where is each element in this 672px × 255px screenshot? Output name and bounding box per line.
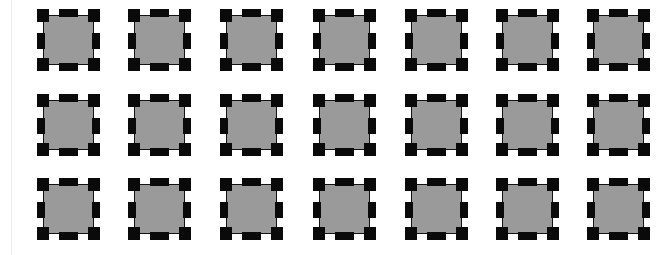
tile-block-m-t xyxy=(518,178,537,186)
tile-fill xyxy=(43,15,94,65)
tile-fill xyxy=(593,184,644,234)
tile-block-c-tr xyxy=(456,178,468,191)
tile-fill xyxy=(319,100,370,150)
tile-block-c-tr xyxy=(456,9,468,22)
tile-block-c-bl xyxy=(587,143,599,156)
tile-block-c-bl xyxy=(496,143,508,156)
tile-block-m-t xyxy=(335,9,354,17)
tile-block-c-bl xyxy=(220,143,232,156)
tile-block-c-br xyxy=(364,143,376,156)
tile-block-c-br xyxy=(456,143,468,156)
tile-block-m-l xyxy=(587,33,595,49)
tile-block-c-br xyxy=(88,58,100,71)
tile-block-m-b xyxy=(609,63,628,71)
tile-block-m-r xyxy=(551,33,559,49)
tile-block-m-l xyxy=(220,33,228,49)
tile-fill xyxy=(411,15,462,65)
tile-block-m-t xyxy=(150,178,169,186)
tile-block-m-b xyxy=(427,63,446,71)
tile-block-m-t xyxy=(427,9,446,17)
tile-block-m-l xyxy=(405,202,413,218)
tile-block-m-b xyxy=(59,232,78,240)
tile-block-c-tl xyxy=(313,9,325,22)
tile-r3-c7 xyxy=(587,178,650,240)
tile-block-c-tl xyxy=(405,178,417,191)
tile-block-c-bl xyxy=(405,227,417,240)
tile-block-m-l xyxy=(37,33,45,49)
tile-block-m-t xyxy=(59,9,78,17)
tile-block-m-r xyxy=(551,202,559,218)
tile-r3-c4 xyxy=(313,178,376,240)
tile-block-c-bl xyxy=(128,227,140,240)
tile-block-c-tr xyxy=(271,178,283,191)
tile-block-c-bl xyxy=(220,58,232,71)
tile-r2-c3 xyxy=(220,94,283,156)
tile-block-m-b xyxy=(150,232,169,240)
tile-block-m-r xyxy=(275,33,283,49)
tile-block-m-r xyxy=(275,118,283,134)
tile-block-m-b xyxy=(335,63,354,71)
tile-block-c-bl xyxy=(405,143,417,156)
tile-block-c-bl xyxy=(496,227,508,240)
tile-block-c-tl xyxy=(37,94,49,107)
tile-block-c-bl xyxy=(128,58,140,71)
tile-block-m-b xyxy=(59,63,78,71)
tile-block-m-l xyxy=(220,202,228,218)
tile-block-c-tl xyxy=(220,94,232,107)
tile-block-m-r xyxy=(460,202,468,218)
tile-block-c-bl xyxy=(37,58,49,71)
tile-block-m-l xyxy=(128,202,136,218)
tile-fill xyxy=(226,15,277,65)
tile-block-m-b xyxy=(59,148,78,156)
tile-block-c-br xyxy=(88,227,100,240)
tile-block-m-b xyxy=(335,232,354,240)
tile-block-m-r xyxy=(368,202,376,218)
tile-block-c-tr xyxy=(638,178,650,191)
tile-block-m-r xyxy=(92,202,100,218)
tile-r1-c5 xyxy=(405,9,468,71)
tile-block-c-tl xyxy=(587,94,599,107)
tile-block-m-t xyxy=(59,94,78,102)
tile-block-m-l xyxy=(587,202,595,218)
tile-block-c-br xyxy=(179,58,191,71)
tile-block-m-l xyxy=(496,33,504,49)
tile-fill xyxy=(593,15,644,65)
tile-fill xyxy=(134,184,185,234)
tile-fill xyxy=(134,100,185,150)
tile-block-c-br xyxy=(179,143,191,156)
tile-block-m-r xyxy=(642,33,650,49)
tile-r2-c2 xyxy=(128,94,191,156)
tile-block-m-r xyxy=(551,118,559,134)
tile-block-m-l xyxy=(128,118,136,134)
tile-block-m-r xyxy=(183,202,191,218)
tile-fill xyxy=(502,184,553,234)
tile-block-c-tr xyxy=(547,9,559,22)
tile-block-m-l xyxy=(313,202,321,218)
tile-block-m-r xyxy=(275,202,283,218)
tile-r1-c4 xyxy=(313,9,376,71)
tile-block-c-tl xyxy=(405,94,417,107)
tile-block-c-br xyxy=(271,58,283,71)
tile-block-m-l xyxy=(220,118,228,134)
tile-fill xyxy=(319,15,370,65)
tile-block-c-tr xyxy=(88,94,100,107)
tile-block-m-b xyxy=(242,148,261,156)
tile-block-m-l xyxy=(405,118,413,134)
tile-fill xyxy=(502,100,553,150)
tile-block-c-br xyxy=(271,143,283,156)
tile-block-m-t xyxy=(335,94,354,102)
tile-block-c-tl xyxy=(128,178,140,191)
tile-block-c-br xyxy=(364,58,376,71)
tile-block-m-b xyxy=(427,232,446,240)
tile-block-c-tr xyxy=(88,178,100,191)
tile-block-m-t xyxy=(518,9,537,17)
tile-block-c-tl xyxy=(496,94,508,107)
tile-block-m-b xyxy=(518,148,537,156)
tile-block-m-t xyxy=(609,9,628,17)
tile-block-c-tl xyxy=(37,178,49,191)
tile-block-m-t xyxy=(427,94,446,102)
tile-block-c-tl xyxy=(128,94,140,107)
tile-block-c-tl xyxy=(587,9,599,22)
tile-block-c-tr xyxy=(179,178,191,191)
tile-block-m-r xyxy=(642,202,650,218)
